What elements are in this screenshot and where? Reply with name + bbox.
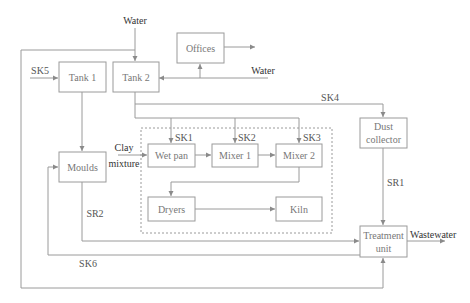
wastewater-label: Wastewater [410,229,457,240]
sk6-label: SK6 [79,258,97,269]
moulds-label: Moulds [67,162,98,173]
tank1-node: Tank 1 [59,62,106,92]
moulds-node: Moulds [59,152,106,182]
tank2-node: Tank 2 [113,62,159,92]
water-right-label: Water [251,65,275,76]
process-flow-diagram: Offices Tank 1 Tank 2 Dust collector Mou… [0,0,470,303]
treatment-unit-node: Treatment unit [360,226,407,257]
clay-label: Clay [115,142,134,153]
dryers-node: Dryers [148,197,195,221]
treatment-label-1: Treatment [363,230,404,241]
mixer1-label: Mixer 1 [219,150,251,161]
tank1-label: Tank 1 [69,72,96,83]
offices-label: Offices [186,43,215,54]
sr1-label: SR1 [387,177,404,188]
offices-node: Offices [177,33,224,63]
tank2-sk4-line [135,92,383,117]
tank2-label: Tank 2 [122,72,149,83]
mixer2-dryers-line [171,167,299,196]
mixer1-node: Mixer 1 [212,144,258,167]
sk5-label: SK5 [31,65,49,76]
wet-pan-node: Wet pan [148,144,195,167]
dryers-label: Dryers [158,204,185,215]
dust-collector-label-1: Dust [374,121,393,132]
mixture-label: mixture [108,158,140,169]
dust-collector-label-2: collector [366,134,402,145]
sk3-label: SK3 [303,132,321,143]
tank2-feed-line [135,104,299,118]
sr2-label: SR2 [86,208,103,219]
kiln-node: Kiln [276,197,322,221]
mixer2-node: Mixer 2 [276,144,322,167]
kiln-label: Kiln [290,204,308,215]
treatment-label-2: unit [376,243,392,254]
sk2-label: SK2 [238,132,256,143]
wet-pan-label: Wet pan [155,150,188,161]
dust-collector-node: Dust collector [360,118,407,148]
mixer2-label: Mixer 2 [283,150,315,161]
water-top-label: Water [123,15,147,26]
sk1-label: SK1 [175,132,193,143]
sk4-label: SK4 [321,92,339,103]
